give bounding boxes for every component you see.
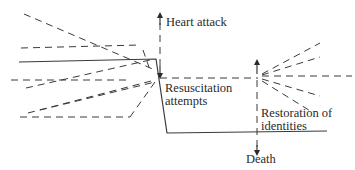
fan-dash-line bbox=[262, 79, 320, 96]
life-trajectory-diagram: Heart attack Resuscitation attempts Rest… bbox=[0, 0, 355, 170]
fan-dash-line bbox=[28, 80, 155, 113]
left-fan-dashed-lines bbox=[11, 14, 155, 117]
fan-dash-line bbox=[26, 60, 150, 88]
fan-dash-line bbox=[262, 57, 320, 75]
heart-attack-label: Heart attack bbox=[166, 16, 227, 29]
right-fan-dashed-lines bbox=[262, 43, 352, 112]
restoration-label-line2: identities bbox=[261, 120, 307, 133]
fan-dash-line bbox=[21, 45, 140, 48]
fan-dash-line bbox=[262, 43, 320, 74]
death-label: Death bbox=[246, 153, 276, 166]
resuscitation-label-line2: attempts bbox=[165, 95, 207, 108]
